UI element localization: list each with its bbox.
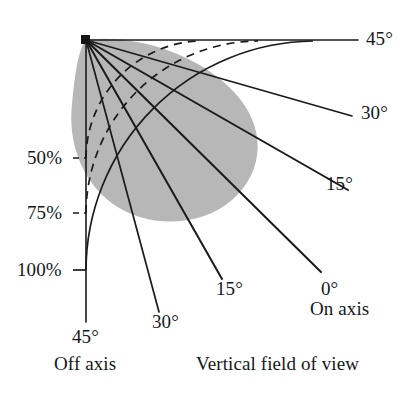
- percent-tick-stubs: [73, 158, 86, 270]
- polar-diagram: [0, 0, 415, 404]
- label-angle-bottom-45: 45°: [72, 327, 99, 346]
- label-angle-right-45: 45°: [366, 29, 393, 48]
- origin-marker: [81, 35, 90, 44]
- label-angle-bottom-30: 30°: [152, 312, 179, 331]
- figure-canvas: 50% 75% 100% 45° 30° 15° 45° 30° 15° 0° …: [0, 0, 415, 404]
- label-100-percent: 100%: [17, 260, 62, 279]
- label-angle-right-15: 15°: [326, 174, 353, 193]
- label-50-percent: 50%: [27, 148, 62, 167]
- label-angle-bottom-0: 0°: [321, 279, 338, 298]
- label-75-percent: 75%: [27, 203, 62, 222]
- figure-caption: Vertical field of view: [196, 354, 359, 373]
- label-angle-bottom-15: 15°: [216, 279, 243, 298]
- label-off-axis: Off axis: [54, 354, 116, 373]
- label-angle-right-30: 30°: [361, 103, 388, 122]
- label-on-axis: On axis: [310, 299, 369, 318]
